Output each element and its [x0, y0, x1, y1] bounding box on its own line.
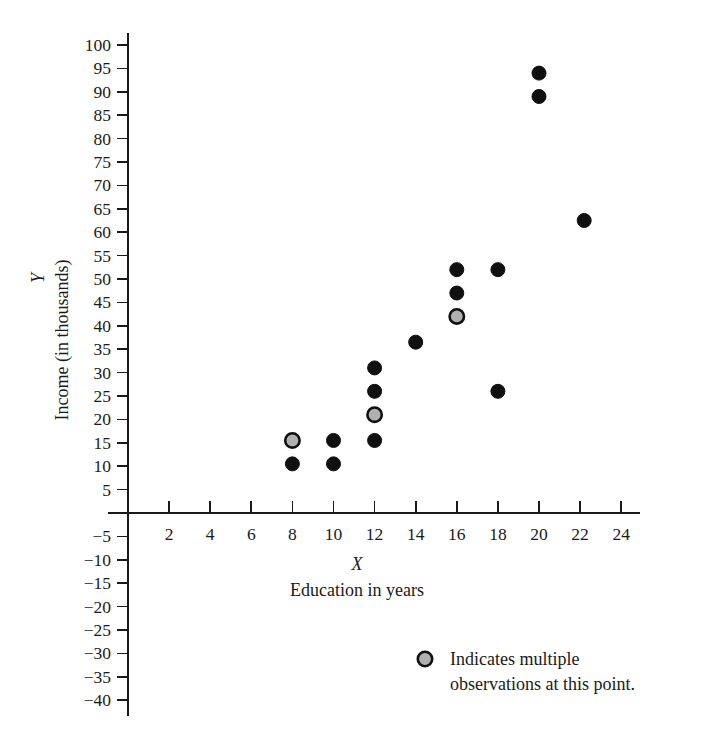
y-tick-label: −5: [92, 526, 111, 546]
data-point: [368, 361, 382, 375]
data-point: [491, 263, 505, 277]
data-point: [491, 384, 505, 398]
y-tick-label: 25: [94, 386, 112, 406]
data-point-multiple: [285, 433, 299, 447]
data-point: [450, 286, 464, 300]
y-tick-label: 5: [102, 480, 111, 500]
data-point-multiple: [450, 309, 464, 323]
data-point: [532, 89, 546, 103]
x-tick-label: 22: [571, 524, 589, 544]
y-tick-label: 45: [94, 292, 112, 312]
y-tick-label: 20: [94, 409, 112, 429]
legend-label-line1: Indicates multiple: [450, 649, 579, 669]
y-tick-label: −10: [84, 550, 112, 570]
y-tick-label: −15: [84, 573, 112, 593]
y-axis-title-symbol: Y: [28, 271, 48, 283]
y-tick-label: −40: [84, 690, 112, 710]
legend: Indicates multiple observations at this …: [418, 649, 635, 694]
x-tick-label: 4: [206, 524, 215, 544]
y-tick-label: −30: [84, 643, 112, 663]
y-tick-label: 85: [94, 105, 112, 125]
data-point: [327, 457, 341, 471]
x-tick-label: 14: [407, 524, 425, 544]
y-tick-label: 60: [94, 222, 112, 242]
data-point-multiple: [367, 408, 381, 422]
y-tick-label: 55: [94, 246, 112, 266]
y-tick-label: 30: [94, 363, 112, 383]
data-point: [577, 214, 591, 228]
y-axis-ticks: 1009590858075706560555045403530252015105…: [84, 35, 128, 710]
x-tick-label: 20: [530, 524, 548, 544]
y-tick-label: 65: [94, 199, 112, 219]
data-point: [450, 263, 464, 277]
y-tick-label: 35: [94, 339, 112, 359]
y-tick-label: 15: [94, 433, 112, 453]
x-axis-title-text: Education in years: [290, 580, 424, 600]
x-tick-label: 16: [448, 524, 466, 544]
legend-label-line2: observations at this point.: [450, 674, 635, 694]
data-point: [409, 335, 423, 349]
x-axis-ticks: 24681012141618202224: [165, 501, 630, 544]
y-tick-label: 70: [94, 175, 112, 195]
scatter-chart-canvas: 1009590858075706560555045403530252015105…: [0, 0, 709, 739]
x-tick-label: 10: [325, 524, 343, 544]
y-tick-label: 95: [94, 58, 112, 78]
y-axis-title-text: Income (in thousands): [52, 260, 73, 421]
x-tick-label: 12: [366, 524, 384, 544]
y-tick-label: −25: [84, 620, 112, 640]
x-tick-label: 24: [612, 524, 630, 544]
multiple-observation-marker-icon: [418, 652, 432, 666]
y-tick-label: 90: [94, 82, 112, 102]
data-point: [368, 433, 382, 447]
y-tick-label: 40: [94, 316, 112, 336]
scatter-plot-figure: 1009590858075706560555045403530252015105…: [0, 0, 709, 739]
y-tick-label: 50: [94, 269, 112, 289]
data-points-group: [285, 66, 591, 471]
y-tick-label: 10: [94, 456, 112, 476]
x-axis-title-symbol: X: [351, 554, 364, 574]
y-tick-label: 75: [94, 152, 112, 172]
x-tick-label: 6: [247, 524, 256, 544]
y-tick-label: −20: [84, 597, 112, 617]
data-point: [532, 66, 546, 80]
y-tick-label: 80: [94, 129, 112, 149]
data-point: [285, 457, 299, 471]
x-tick-label: 8: [288, 524, 297, 544]
x-tick-label: 2: [165, 524, 174, 544]
data-point: [368, 384, 382, 398]
data-point: [327, 433, 341, 447]
x-tick-label: 18: [489, 524, 507, 544]
y-tick-label: 100: [85, 35, 112, 55]
y-tick-label: −35: [84, 667, 112, 687]
